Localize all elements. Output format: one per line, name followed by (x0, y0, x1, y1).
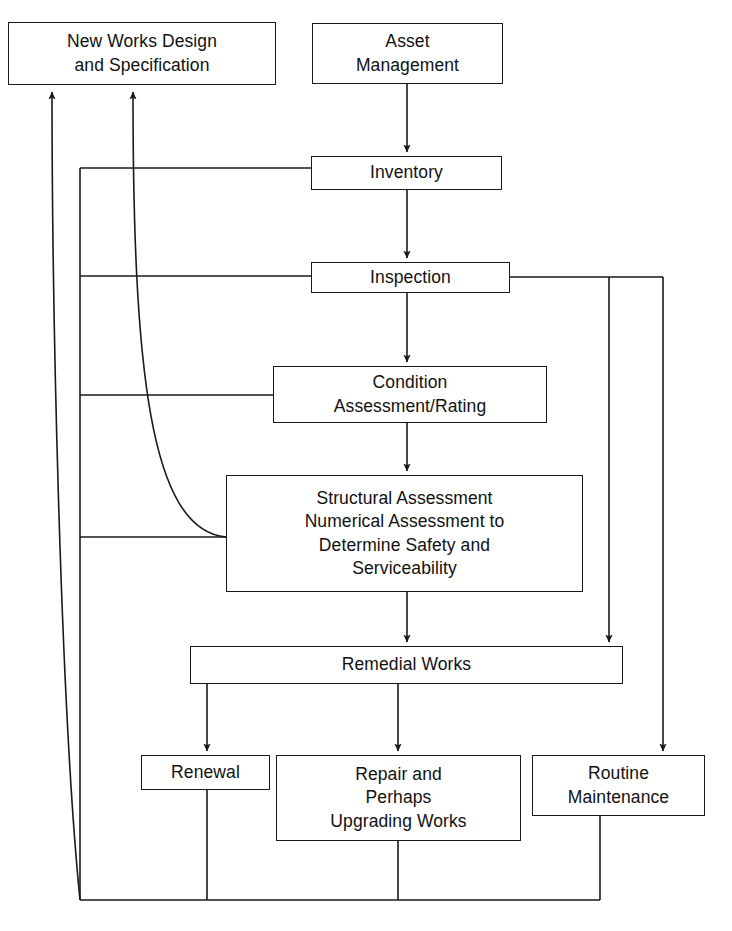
node-structural-assessment[interactable]: Structural Assessment Numerical Assessme… (226, 475, 583, 592)
node-label: Structural Assessment Numerical Assessme… (227, 487, 582, 579)
node-inspection[interactable]: Inspection (311, 262, 510, 293)
node-label: Asset Management (313, 30, 502, 76)
edge-curve-to-new-works-right (133, 92, 226, 537)
node-label: Renewal (142, 761, 269, 784)
node-label: Inventory (312, 161, 501, 184)
node-condition-assessment[interactable]: Condition Assessment/Rating (273, 366, 547, 423)
node-label: Repair and Perhaps Upgrading Works (277, 763, 520, 832)
flowchart-canvas: New Works Design and Specification Asset… (0, 0, 732, 931)
node-remedial-works[interactable]: Remedial Works (190, 646, 623, 684)
node-label: Condition Assessment/Rating (274, 371, 546, 417)
node-new-works-design[interactable]: New Works Design and Specification (8, 22, 276, 85)
node-label: Remedial Works (191, 653, 622, 676)
node-repair-upgrading[interactable]: Repair and Perhaps Upgrading Works (276, 755, 521, 841)
node-label: Inspection (312, 266, 509, 289)
node-label: Routine Maintenance (533, 762, 704, 808)
edge-curve-to-new-works-left (52, 92, 80, 900)
node-renewal[interactable]: Renewal (141, 755, 270, 790)
node-label: New Works Design and Specification (9, 30, 275, 76)
node-asset-management[interactable]: Asset Management (312, 23, 503, 84)
node-inventory[interactable]: Inventory (311, 156, 502, 190)
node-routine-maintenance[interactable]: Routine Maintenance (532, 755, 705, 816)
